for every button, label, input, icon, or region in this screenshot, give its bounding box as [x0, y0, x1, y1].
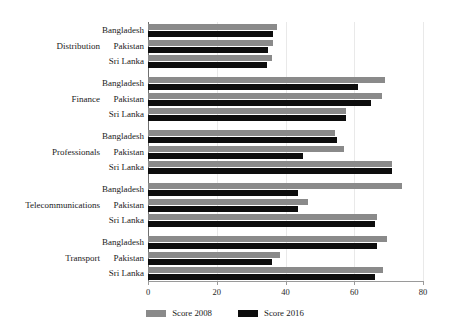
bar-score-2016	[148, 62, 267, 68]
bar-group	[148, 183, 423, 198]
category-label: Bangladesh	[24, 131, 144, 141]
legend-item-score-2008[interactable]: Score 2008	[146, 308, 212, 318]
bar-score-2016	[148, 115, 346, 121]
bar-score-2008	[148, 55, 272, 61]
bar-group	[148, 236, 423, 251]
bar-score-2008	[148, 252, 280, 258]
bar-score-2008	[148, 108, 346, 114]
bar-group	[148, 55, 423, 70]
bar-chart: 020406080 DistributionFinanceProfessiona…	[0, 0, 450, 332]
bar-score-2008	[148, 93, 382, 99]
bar-group	[148, 93, 423, 108]
bar-group	[148, 77, 423, 92]
x-axis-tick	[423, 281, 424, 285]
category-label: Sri Lanka	[24, 215, 144, 225]
bar-group	[148, 267, 423, 282]
bar-score-2016	[148, 47, 268, 53]
bar-score-2008	[148, 199, 308, 205]
category-label: Sri Lanka	[24, 162, 144, 172]
bar-score-2008	[148, 130, 335, 136]
x-axis-tick-label: 80	[408, 287, 438, 298]
bar-score-2008	[148, 267, 383, 273]
bar-score-2008	[148, 40, 273, 46]
bar-score-2016	[148, 84, 358, 90]
bar-group	[148, 130, 423, 145]
category-label-column: BangladeshPakistanSri LankaBangladeshPak…	[22, 22, 144, 280]
bar-score-2008	[148, 183, 402, 189]
legend-item-score-2016[interactable]: Score 2016	[238, 308, 304, 318]
x-axis-tick-label: 40	[271, 287, 301, 298]
gridline	[423, 22, 424, 281]
bar-group	[148, 214, 423, 229]
bar-group	[148, 108, 423, 123]
bar-score-2008	[148, 214, 377, 220]
x-axis-tick-label: 20	[202, 287, 232, 298]
bar-score-2008	[148, 161, 392, 167]
category-label: Bangladesh	[24, 237, 144, 247]
category-label: Bangladesh	[24, 184, 144, 194]
legend-label: Score 2008	[172, 308, 212, 318]
bar-score-2016	[148, 221, 375, 227]
bar-score-2016	[148, 153, 303, 159]
x-axis-tick-label: 0	[133, 287, 163, 298]
bar-score-2008	[148, 77, 385, 83]
legend-label: Score 2016	[264, 308, 304, 318]
bar-group	[148, 24, 423, 39]
x-axis-tick-label: 60	[339, 287, 369, 298]
bar-score-2016	[148, 259, 272, 265]
category-label: Sri Lanka	[24, 109, 144, 119]
bar-group	[148, 199, 423, 214]
chart-legend: Score 2008 Score 2016	[0, 308, 450, 318]
category-label: Pakistan	[24, 147, 144, 157]
bar-score-2016	[148, 206, 298, 212]
category-label: Bangladesh	[24, 25, 144, 35]
bar-group	[148, 40, 423, 55]
bar-score-2016	[148, 31, 273, 37]
legend-swatch-icon	[146, 310, 166, 317]
category-label: Sri Lanka	[24, 268, 144, 278]
bar-score-2008	[148, 146, 344, 152]
bar-group	[148, 161, 423, 176]
category-label: Pakistan	[24, 94, 144, 104]
legend-swatch-icon	[238, 310, 258, 317]
bar-score-2016	[148, 137, 337, 143]
category-label: Bangladesh	[24, 78, 144, 88]
category-label: Pakistan	[24, 253, 144, 263]
bar-score-2008	[148, 236, 387, 242]
category-label: Pakistan	[24, 41, 144, 51]
bar-score-2016	[148, 100, 371, 106]
bar-score-2016	[148, 274, 375, 280]
bar-score-2016	[148, 243, 377, 249]
category-label: Pakistan	[24, 200, 144, 210]
bar-group	[148, 146, 423, 161]
category-label: Sri Lanka	[24, 56, 144, 66]
bar-group	[148, 252, 423, 267]
bar-score-2016	[148, 168, 392, 174]
bar-score-2016	[148, 190, 298, 196]
bar-score-2008	[148, 24, 277, 30]
plot-area	[148, 22, 423, 280]
